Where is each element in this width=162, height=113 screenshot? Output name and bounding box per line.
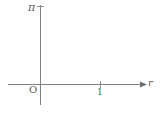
coordinate-axes-figure: π O 1 r <box>0 0 162 113</box>
x-axis-tick-label-one: 1 <box>97 88 103 97</box>
axes-canvas <box>0 0 162 113</box>
x-axis-label: r <box>148 78 153 88</box>
x-axis-arrow-icon <box>140 82 147 88</box>
origin-label: O <box>29 85 37 95</box>
y-axis-tick-label-pi: π <box>28 2 35 13</box>
